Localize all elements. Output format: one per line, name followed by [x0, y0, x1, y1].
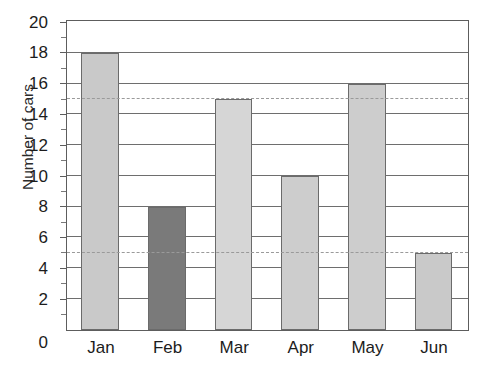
y-tick-label: 20: [8, 14, 48, 31]
y-tick-label: 4: [8, 260, 48, 277]
y-tick-label: 16: [8, 75, 48, 92]
bar-mar[interactable]: [215, 99, 253, 330]
y-tick-label: 14: [8, 106, 48, 123]
y-tick-label-zero: 0: [8, 334, 48, 351]
y-tick-label: 18: [8, 44, 48, 61]
bar-feb[interactable]: [148, 207, 186, 330]
y-tick-label: 2: [8, 291, 48, 308]
x-tick-label-jun: Jun: [394, 339, 474, 356]
y-tick-label: 12: [8, 137, 48, 154]
plot-area: [66, 20, 469, 331]
clipped-top-caption: [66, 0, 470, 6]
y-tick-label: 6: [8, 229, 48, 246]
bar-apr[interactable]: [281, 176, 319, 330]
bar-jun[interactable]: [415, 253, 453, 330]
reference-line: [67, 98, 468, 99]
y-tick-label: 10: [8, 168, 48, 185]
bar-series: [67, 21, 468, 330]
bar-may[interactable]: [348, 84, 386, 330]
bar-jan[interactable]: [81, 53, 119, 330]
reference-line: [67, 252, 468, 253]
y-tick-label: 8: [8, 198, 48, 215]
bar-chart: Number of cars 02468101214161820 JanFebM…: [0, 0, 483, 366]
plot-inner: [67, 21, 468, 330]
